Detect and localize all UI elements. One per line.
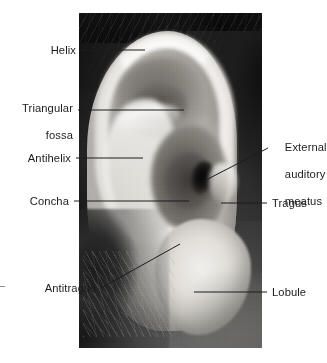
label-triangular-fossa-line2: fossa bbox=[46, 129, 73, 141]
label-antihelix: Antihelix bbox=[0, 152, 71, 165]
label-helix: Helix bbox=[0, 44, 76, 57]
label-antitragus: Antitragus bbox=[0, 282, 96, 295]
label-external-auditory-meatus-line2: auditory bbox=[285, 168, 326, 180]
label-tragus: Tragus bbox=[272, 197, 321, 210]
label-external-auditory-meatus-line1: External bbox=[285, 141, 327, 153]
label-concha: Concha bbox=[0, 195, 69, 208]
label-triangular-fossa-line1: Triangular bbox=[22, 102, 73, 114]
ear-photograph bbox=[79, 13, 262, 348]
label-lobule: Lobule bbox=[272, 286, 321, 299]
film-grain-overlay bbox=[79, 13, 262, 348]
label-triangular-fossa: Triangular fossa bbox=[0, 89, 73, 156]
